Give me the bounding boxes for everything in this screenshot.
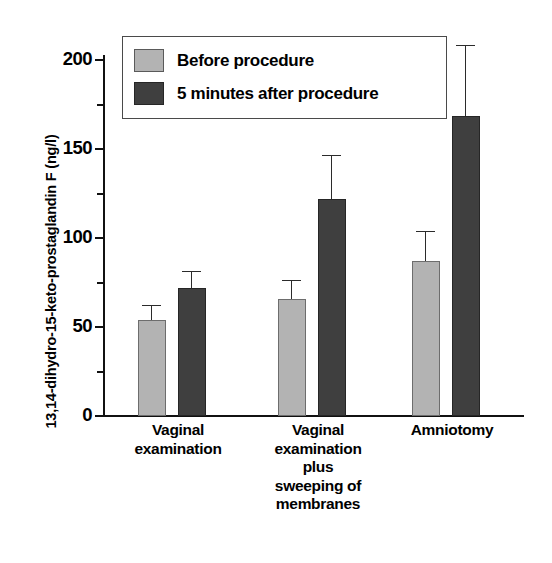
y-tick-200 <box>95 59 104 61</box>
y-tick-75 <box>97 282 104 284</box>
y-tick-175 <box>97 104 104 106</box>
bar-before-vaginal-examination-sweeping <box>278 299 306 416</box>
error-bar-before-vaginal-examination <box>151 306 152 320</box>
legend: Before procedure 5 minutes after procedu… <box>122 36 447 119</box>
error-bar-after-vaginal-examination-sweeping <box>331 156 332 199</box>
legend-item-after-procedure: 5 minutes after procedure <box>134 77 436 110</box>
error-bar-after-amniotomy <box>465 46 466 116</box>
category-label-amniotomy: Amniotomy <box>372 421 532 440</box>
legend-label-before-procedure: Before procedure <box>177 51 314 71</box>
category-line: examination <box>98 440 258 459</box>
bar-before-vaginal-examination <box>138 320 166 416</box>
bar-after-amniotomy <box>452 116 480 416</box>
x-axis-category-labels: Vaginal examination Vaginal examination … <box>104 421 524 561</box>
y-tick-label-100: 100 <box>48 226 92 248</box>
y-tick-50 <box>95 326 104 328</box>
y-tick-25 <box>97 371 104 373</box>
error-cap-after-amniotomy <box>456 45 475 46</box>
bar-after-vaginal-examination <box>178 288 206 416</box>
y-tick-150 <box>95 148 104 150</box>
y-tick-label-0: 0 <box>48 404 92 426</box>
legend-swatch-before-icon <box>134 49 164 72</box>
error-cap-after-vaginal-examination-sweeping <box>322 155 341 156</box>
legend-item-before-procedure: Before procedure <box>134 44 436 77</box>
legend-label-after-procedure: 5 minutes after procedure <box>177 84 378 104</box>
y-tick-125 <box>97 193 104 195</box>
bar-chart: 13,14-dihydro-15-keto-prostaglandin F (n… <box>0 0 552 563</box>
category-line: sweeping of <box>238 477 398 496</box>
y-tick-label-50: 50 <box>48 315 92 337</box>
bar-after-vaginal-examination-sweeping <box>318 199 346 416</box>
y-tick-label-150: 150 <box>48 137 92 159</box>
category-line: Amniotomy <box>372 421 532 440</box>
error-bar-after-vaginal-examination <box>191 272 192 288</box>
error-bar-before-amniotomy <box>425 232 426 261</box>
y-tick-100 <box>95 237 104 239</box>
y-tick-0 <box>95 415 104 417</box>
category-line: plus <box>238 458 398 477</box>
category-line: membranes <box>238 495 398 514</box>
category-line: Vaginal <box>98 421 258 440</box>
category-label-vaginal-examination: Vaginal examination <box>98 421 258 458</box>
legend-swatch-after-icon <box>134 82 164 105</box>
y-axis-tick-labels: 200 150 100 50 0 <box>42 0 92 563</box>
error-bar-before-vaginal-examination-sweeping <box>291 281 292 299</box>
category-line: examination <box>238 440 398 459</box>
error-cap-before-amniotomy <box>416 231 435 232</box>
error-cap-before-vaginal-examination <box>142 305 161 306</box>
error-cap-after-vaginal-examination <box>182 271 201 272</box>
y-tick-label-200: 200 <box>48 48 92 70</box>
error-cap-before-vaginal-examination-sweeping <box>282 280 301 281</box>
bar-before-amniotomy <box>412 261 440 416</box>
